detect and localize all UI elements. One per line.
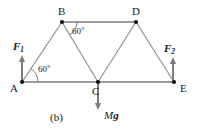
node-label-C: C: [92, 86, 99, 97]
force-label-Mg: Mg: [104, 110, 119, 121]
figure-caption: (b): [50, 112, 63, 123]
force-Mg-subscript: g: [113, 109, 119, 121]
angle-B-value: 60: [72, 26, 81, 36]
angle-B-unit: °: [81, 25, 85, 35]
angle-A-unit: °: [47, 63, 51, 73]
force-Mg-symbol: M: [104, 109, 113, 121]
joint-dot-E: [172, 80, 176, 84]
joint-dot-B: [60, 20, 64, 24]
force-F2-subscript: 2: [171, 47, 175, 56]
node-label-D: D: [132, 6, 140, 17]
angle-label-at-A: 60°: [38, 64, 51, 74]
member-CD: [98, 22, 136, 82]
force-arrow-head-F2: [170, 57, 176, 64]
angle-arc-angle-at-A: [31, 69, 38, 82]
figure-canvas: A B C D E F1 F2 Mg 60° 60° (b): [0, 0, 201, 135]
truss-joints: [20, 20, 176, 84]
node-label-E: E: [180, 83, 187, 94]
force-label-F1: F1: [13, 41, 24, 54]
joint-dot-D: [134, 20, 138, 24]
joint-dot-C: [96, 80, 100, 84]
force-arrow-head-F1: [19, 55, 25, 62]
force-arrow-head-Mg: [95, 103, 101, 110]
angle-A-value: 60: [38, 64, 47, 74]
force-label-F2: F2: [164, 43, 175, 56]
truss-diagram-svg: [0, 0, 201, 135]
joint-dot-A: [20, 80, 24, 84]
node-label-A: A: [10, 83, 18, 94]
node-label-B: B: [58, 6, 65, 17]
force-F1-subscript: 1: [20, 45, 24, 54]
angle-label-at-B: 60°: [72, 26, 85, 36]
